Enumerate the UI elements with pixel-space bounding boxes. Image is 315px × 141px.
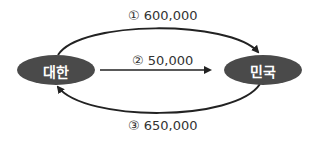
arrow-bottom bbox=[58, 84, 260, 113]
arrow-top bbox=[58, 28, 258, 55]
flow-3-label: ③ 650,000 bbox=[128, 118, 198, 133]
node-left-label: 대한 bbox=[17, 61, 95, 81]
flow-2-label: ② 50,000 bbox=[132, 53, 193, 68]
flow-1-label: ① 600,000 bbox=[128, 8, 198, 23]
node-right-label: 민국 bbox=[224, 61, 302, 81]
